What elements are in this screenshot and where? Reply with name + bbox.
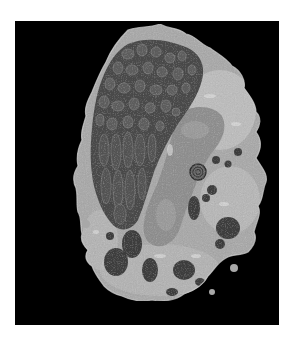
concentric-organelle	[190, 164, 206, 180]
micrograph-svg	[0, 0, 296, 341]
micrograph-figure	[0, 0, 296, 341]
